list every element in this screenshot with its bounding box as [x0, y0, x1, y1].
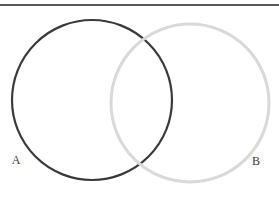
- set-label-a: A: [12, 153, 21, 167]
- venn-diagram-figure: A B: [0, 0, 279, 197]
- venn-diagram-canvas: A B: [0, 0, 279, 197]
- set-label-b: B: [252, 154, 260, 168]
